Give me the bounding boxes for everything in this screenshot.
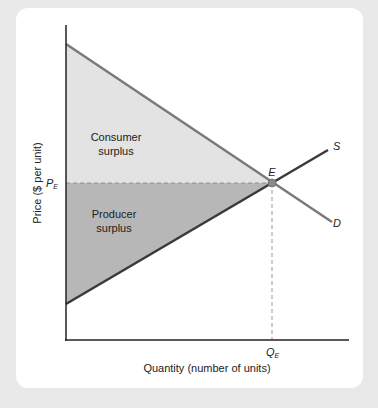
consumer-surplus-label-2: surplus <box>98 145 134 157</box>
surplus-chart: Consumer surplus Producer surplus E S D … <box>0 0 378 408</box>
y-axis-label: Price ($ per unit) <box>31 142 43 223</box>
equilibrium-point <box>268 179 276 187</box>
pe-tick-label: PE <box>46 177 58 190</box>
x-axis-label: Quantity (number of units) <box>143 362 270 374</box>
supply-label: S <box>333 140 341 152</box>
producer-surplus-label-1: Producer <box>92 208 137 220</box>
demand-label: D <box>333 217 341 229</box>
equilibrium-label: E <box>268 166 276 178</box>
consumer-surplus-label-1: Consumer <box>91 131 142 143</box>
qe-tick-label: QE <box>266 346 280 359</box>
producer-surplus-label-2: surplus <box>96 222 132 234</box>
